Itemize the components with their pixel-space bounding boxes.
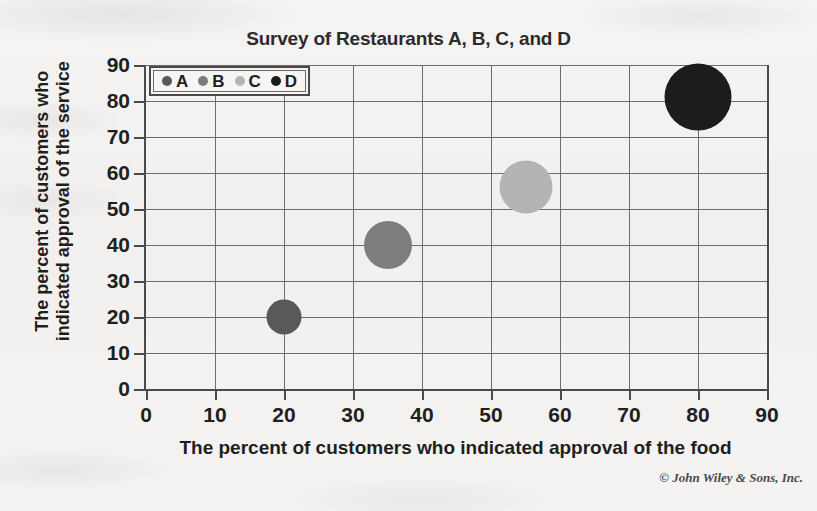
- x-axis-tick-label: 30: [341, 403, 364, 427]
- legend-item-c[interactable]: C: [230, 73, 266, 90]
- legend-item-d[interactable]: D: [266, 73, 302, 90]
- gridline-vertical: [284, 65, 285, 389]
- legend-item-a[interactable]: A: [157, 73, 193, 90]
- y-axis-tick: [134, 101, 146, 103]
- scatter-chart: Survey of Restaurants A, B, C, and D 010…: [0, 0, 817, 511]
- x-axis-tick-label: 40: [410, 403, 433, 427]
- x-axis-tick-label: 10: [203, 403, 226, 427]
- gridline-horizontal: [146, 209, 767, 210]
- gridline-horizontal: [146, 173, 767, 174]
- legend-item-label: D: [285, 73, 297, 90]
- x-axis-tick-label: 60: [548, 403, 571, 427]
- x-axis-tick-label: 20: [272, 403, 295, 427]
- copyright-notice: © John Wiley & Sons, Inc.: [659, 470, 803, 486]
- y-axis-tick-label: 80: [107, 89, 130, 113]
- y-axis-tick-label: 20: [107, 305, 130, 329]
- x-axis-title: The percent of customers who indicated a…: [144, 437, 767, 459]
- y-axis-tick-label: 90: [107, 53, 130, 77]
- gridline-vertical: [767, 65, 769, 389]
- x-axis-tick: [491, 389, 493, 400]
- y-axis-tick: [134, 245, 146, 247]
- gridline-horizontal: [146, 245, 767, 246]
- legend-marker-icon: [271, 76, 281, 86]
- x-axis-tick-label: 70: [617, 403, 640, 427]
- legend-item-label: B: [212, 73, 224, 90]
- gridline-vertical: [353, 65, 354, 389]
- legend: ABCD: [149, 66, 310, 96]
- gridline-horizontal: [146, 281, 767, 282]
- x-axis-tick-label: 0: [140, 403, 152, 427]
- y-axis-tick: [134, 65, 146, 67]
- legend-item-label: A: [176, 73, 188, 90]
- legend-item-b[interactable]: B: [193, 73, 229, 90]
- y-axis-tick: [134, 353, 146, 355]
- y-axis-tick-label: 30: [107, 269, 130, 293]
- chart-title: Survey of Restaurants A, B, C, and D: [0, 28, 817, 50]
- gridline-horizontal: [146, 317, 767, 318]
- x-axis-tick: [560, 389, 562, 400]
- x-axis-tick: [698, 389, 700, 400]
- y-axis-tick-label: 40: [107, 233, 130, 257]
- gridline-vertical: [215, 65, 216, 389]
- y-axis-title: The percent of customers who indicated a…: [32, 61, 74, 341]
- x-axis-tick: [215, 389, 217, 400]
- gridline-horizontal: [146, 353, 767, 354]
- gridline-vertical: [422, 65, 423, 389]
- x-axis-tick: [353, 389, 355, 400]
- y-axis-tick-label: 10: [107, 341, 130, 365]
- y-axis-title-line-2: indicated approval of the service: [53, 61, 74, 341]
- gridline-vertical: [629, 65, 630, 389]
- data-point-c[interactable]: [499, 161, 552, 214]
- y-axis-tick: [134, 209, 146, 211]
- y-axis-tick-label: 70: [107, 125, 130, 149]
- data-point-b[interactable]: [364, 221, 412, 269]
- y-axis-tick: [134, 317, 146, 319]
- x-axis-tick: [629, 389, 631, 400]
- plot-area: 01020304050607080900102030405060708090AB…: [144, 65, 767, 391]
- y-axis-tick: [134, 389, 146, 391]
- legend-marker-icon: [162, 76, 172, 86]
- gridline-vertical: [491, 65, 492, 389]
- y-axis-tick-label: 0: [118, 377, 130, 401]
- legend-marker-icon: [198, 76, 208, 86]
- x-axis-tick: [422, 389, 424, 400]
- data-point-d[interactable]: [665, 64, 732, 131]
- x-axis-tick-label: 50: [479, 403, 502, 427]
- y-axis-title-line-1: The percent of customers who: [32, 61, 53, 341]
- data-point-a[interactable]: [267, 300, 302, 335]
- x-axis-tick: [146, 389, 148, 400]
- y-axis-tick-label: 50: [107, 197, 130, 221]
- y-axis-tick: [134, 137, 146, 139]
- legend-marker-icon: [235, 76, 245, 86]
- gridline-vertical: [560, 65, 561, 389]
- legend-item-label: C: [249, 73, 261, 90]
- y-axis-tick-label: 60: [107, 161, 130, 185]
- x-axis-tick-label: 90: [755, 403, 778, 427]
- y-axis-tick: [134, 281, 146, 283]
- gridline-horizontal: [146, 137, 767, 138]
- y-axis-tick: [134, 173, 146, 175]
- x-axis-tick: [284, 389, 286, 400]
- x-axis-tick-label: 80: [686, 403, 709, 427]
- x-axis-tick: [767, 389, 769, 400]
